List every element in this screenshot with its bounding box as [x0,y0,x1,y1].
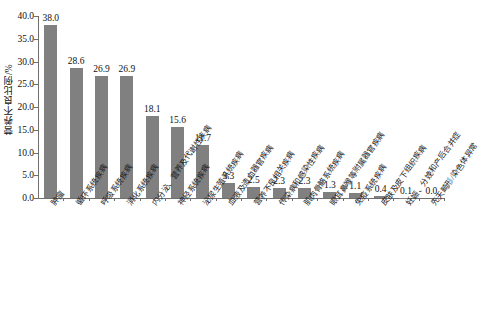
y-axis-title: 营养不良比例/% [2,0,16,200]
bar-value-label: 26.9 [93,64,110,74]
x-axis-tick-mark [266,198,267,201]
bar-value-label: 15.6 [169,115,186,125]
x-axis-tick-mark [89,198,90,201]
bar-value-label: 26.9 [119,64,136,74]
x-axis-tick-mark [292,198,293,201]
x-axis-tick-mark [140,198,141,201]
y-axis-tick-mark [34,153,38,154]
x-axis-tick-mark [190,198,191,201]
x-axis-tick-mark [216,198,217,201]
y-axis-tick-mark [34,107,38,108]
x-axis-tick-mark [114,198,115,201]
y-axis-tick-mark [34,16,38,17]
x-axis-tick-mark [419,198,420,201]
x-axis-tick-mark [317,198,318,201]
y-axis-tick-mark [34,62,38,63]
bar-value-label: 38.0 [42,13,59,23]
bar-value-label: 28.6 [68,56,85,66]
y-axis-tick-mark [34,198,38,199]
y-axis-tick-mark [34,84,38,85]
x-axis-tick-mark [63,198,64,201]
y-axis-tick-mark [34,39,38,40]
y-axis-tick-mark [34,175,38,176]
x-axis-tick-mark [343,198,344,201]
x-axis-tick-mark [241,198,242,201]
x-axis-tick-mark [165,198,166,201]
x-axis-tick-mark [393,198,394,201]
y-axis-tick-mark [34,130,38,131]
bar-value-label: 18.1 [144,104,161,114]
bar [44,25,57,198]
x-axis-tick-mark [368,198,369,201]
bar [70,68,83,198]
x-axis-tick-mark [444,198,445,201]
